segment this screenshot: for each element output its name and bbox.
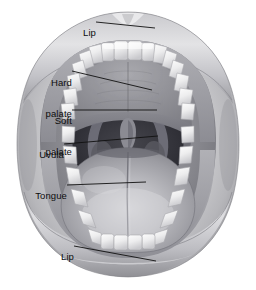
label-lip-lower-text: Lip <box>61 251 74 262</box>
mouth-anatomy-figure: Lip Hard palate Soft palate Uvula Tongue… <box>0 0 256 290</box>
label-tongue: Tongue <box>10 180 67 212</box>
incisor-highlight <box>103 43 153 49</box>
tooth-lower-central-left <box>114 235 128 250</box>
label-lip-upper: Lip <box>62 17 96 49</box>
label-tongue-text: Tongue <box>35 190 67 201</box>
tongue-highlight-upper-left <box>82 166 126 194</box>
label-lip-lower: Lip <box>40 241 74 273</box>
label-soft-palate-line1: Soft <box>14 116 72 126</box>
label-lip-upper-text: Lip <box>83 27 96 38</box>
label-hard-palate-line1: Hard <box>14 78 72 88</box>
tooth-upper-molar3-right <box>181 103 195 120</box>
label-uvula: Uvula <box>14 139 64 171</box>
tooth-lower-lateral-left <box>101 234 114 249</box>
tooth-lower-lateral-right <box>142 234 155 249</box>
tooth-lower-molar3-right <box>181 126 194 143</box>
label-uvula-text: Uvula <box>39 149 64 160</box>
tooth-lower-molar2-right <box>179 146 193 164</box>
tooth-lower-central-right <box>128 235 142 250</box>
